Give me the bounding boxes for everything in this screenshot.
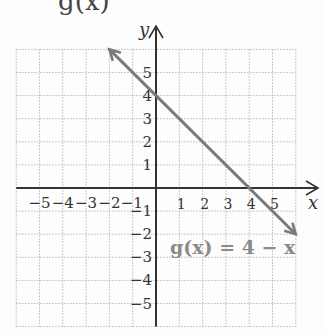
- function-graph: −5−4−3−2−112345−5−4−3−2−112345 yxg(x) = …: [0, 0, 325, 335]
- svg-text:4: 4: [247, 196, 256, 212]
- svg-text:−2: −2: [130, 225, 152, 243]
- axis-labels: yxg(x) = 4 − x: [138, 19, 318, 258]
- svg-text:−4: −4: [52, 194, 74, 212]
- svg-text:−5: −5: [28, 194, 50, 212]
- svg-text:2: 2: [142, 133, 152, 151]
- svg-text:g(x) = 4 − x: g(x) = 4 − x: [170, 236, 296, 258]
- svg-text:−1: −1: [130, 202, 152, 220]
- svg-text:1: 1: [177, 196, 186, 212]
- svg-text:−2: −2: [98, 194, 120, 212]
- svg-text:2: 2: [200, 196, 209, 212]
- svg-text:3: 3: [142, 110, 152, 128]
- svg-text:−4: −4: [130, 271, 152, 289]
- svg-text:−3: −3: [75, 194, 97, 212]
- svg-text:y: y: [138, 19, 150, 40]
- svg-text:x: x: [308, 192, 318, 213]
- svg-text:1: 1: [142, 156, 152, 174]
- svg-text:3: 3: [223, 196, 232, 212]
- svg-text:−5: −5: [130, 295, 152, 313]
- svg-text:5: 5: [142, 64, 152, 82]
- svg-text:−3: −3: [130, 248, 152, 266]
